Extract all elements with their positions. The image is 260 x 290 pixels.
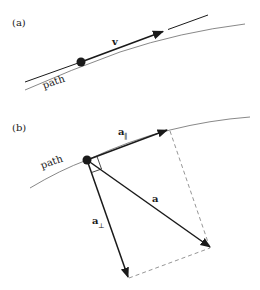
path-curve-b (30, 117, 250, 188)
panel-a: (a) v path (12, 15, 245, 91)
velocity-label: v (111, 36, 119, 47)
a-parallel-label: a ‖ (118, 126, 128, 140)
velocity-vector (81, 32, 163, 63)
tangent-line-forward (168, 15, 208, 30)
svg-text:⊥: ⊥ (98, 222, 105, 230)
particle-dot-b (83, 156, 92, 165)
dashed-projection-parallel (170, 131, 210, 248)
a-perp-label: a ⊥ (92, 215, 105, 230)
panel-b: (b) path a ‖ a ⊥ a (12, 117, 250, 278)
panel-b-label: (b) (12, 122, 26, 133)
particle-dot (77, 58, 86, 67)
svg-text:‖: ‖ (124, 132, 128, 140)
motion-diagram: (a) v path (b) path a ‖ a ⊥ a (0, 0, 260, 290)
a-label: a (152, 193, 159, 204)
dashed-projection-perp (129, 248, 210, 278)
path-label-b: path (39, 153, 65, 171)
panel-a-label: (a) (12, 17, 26, 28)
a-vector (87, 160, 210, 247)
